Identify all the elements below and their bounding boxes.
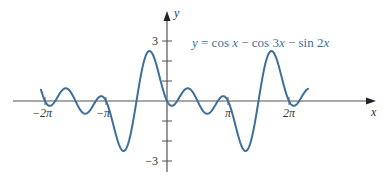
- formula-part: − sin 2: [285, 35, 324, 50]
- x-tick-label: −2π: [32, 106, 53, 120]
- x-axis-arrow-icon: [366, 98, 376, 105]
- formula-part: − cos 3: [238, 35, 279, 50]
- y-axis-label: y: [173, 6, 180, 20]
- function-annotation: y = cos x − cos 3x − sin 2x: [190, 35, 329, 50]
- formula-part: x: [322, 35, 329, 50]
- y-tick-label: 3: [152, 34, 158, 48]
- x-axis-label: x: [370, 105, 377, 119]
- formula-part: = cos: [198, 35, 232, 50]
- y-axis-arrow-icon: [164, 11, 171, 21]
- y-tick-label: −3: [145, 154, 158, 168]
- x-tick-label: 2π: [283, 106, 296, 120]
- function-plot: −2π−ππ2π3−3 x y y = cos x − cos 3x − sin…: [0, 0, 391, 188]
